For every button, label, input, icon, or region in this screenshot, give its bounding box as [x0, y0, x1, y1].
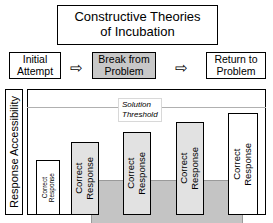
- y-axis-label-box: Response Accessibility: [5, 89, 23, 215]
- arrow-right-icon-1: ⇨: [62, 60, 91, 75]
- process-step-initial-attempt-line-2: Attempt: [17, 66, 53, 78]
- incubation-shaded-region: [91, 180, 243, 223]
- bar-correct-response-5: Correct Response: [228, 113, 258, 215]
- solution-threshold-label-line-1: Solution: [122, 100, 158, 110]
- process-step-initial-attempt-line-1: Initial: [17, 54, 53, 66]
- process-step-return-to-problem-line-1: Return to: [214, 54, 257, 66]
- process-step-break-from-problem-line-2: Problem: [98, 66, 149, 78]
- arrow-right-icon-2: ⇨: [159, 60, 204, 75]
- bar-correct-response-1: Correct Response: [36, 160, 60, 215]
- process-step-initial-attempt: Initial Attempt: [9, 52, 61, 79]
- bar-correct-response-2: Correct Response: [71, 142, 99, 215]
- process-step-break-from-problem-line-1: Break from: [98, 54, 149, 66]
- diagram-title: Constructive Theories of Incubation: [57, 5, 218, 45]
- process-step-return-to-problem-line-2: Problem: [214, 66, 257, 78]
- solution-threshold-label-line-2: Threshold: [122, 110, 158, 120]
- y-axis-label: Response Accessibility: [8, 96, 20, 208]
- process-step-return-to-problem: Return to Problem: [206, 52, 266, 79]
- bar-label-1: Correct Response: [41, 173, 56, 202]
- title-line-2: of Incubation: [74, 25, 200, 40]
- title-line-1: Constructive Theories: [74, 10, 200, 25]
- bar-correct-response-3: Correct Response: [123, 132, 151, 215]
- solution-threshold-label: Solution Threshold: [118, 98, 162, 122]
- process-step-break-from-problem: Break from Problem: [92, 52, 156, 79]
- bar-label-3: Correct Response: [126, 152, 147, 195]
- bar-label-2: Correct Response: [74, 157, 95, 200]
- bar-label-5: Correct Response: [232, 143, 253, 186]
- bar-correct-response-4: Correct Response: [176, 122, 204, 215]
- bar-label-4: Correct Response: [179, 147, 200, 190]
